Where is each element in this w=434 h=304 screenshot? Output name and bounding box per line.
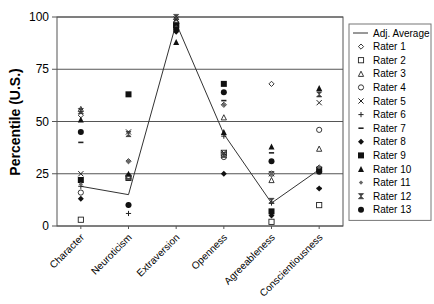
data-point	[316, 169, 322, 175]
x-tick-label: Extraversion	[135, 232, 182, 279]
legend-label: Rater 7	[373, 123, 406, 134]
y-axis: 0255075100	[29, 10, 57, 233]
data-point	[317, 127, 322, 132]
data-point	[358, 152, 364, 158]
x-axis: CharacterNeuroticismExtraversionOpenness…	[47, 226, 324, 299]
data-point	[126, 202, 132, 208]
legend-label: Rater 4	[373, 82, 406, 93]
data-point	[78, 129, 84, 135]
x-tick-label: Character	[47, 231, 86, 270]
y-tick-label: 100	[29, 10, 49, 24]
legend-label: Rater 12	[373, 191, 412, 202]
legend-label: Rater 9	[373, 150, 406, 161]
y-axis-label: Percentile (U.S.)	[7, 68, 23, 175]
data-point	[358, 58, 363, 63]
legend-label: Rater 11	[373, 177, 411, 188]
data-point	[358, 207, 364, 213]
legend: Adj. AverageRater 1Rater 2Rater 3Rater 4…	[349, 24, 431, 220]
legend-label: Adj. Average	[373, 28, 430, 39]
legend-label: Rater 5	[373, 96, 406, 107]
data-point	[221, 89, 227, 95]
plot-area	[57, 14, 343, 226]
legend-label: Rater 2	[373, 55, 406, 66]
x-tick-label: Openness	[189, 232, 229, 272]
y-tick-label: 75	[36, 62, 50, 76]
legend-label: Rater 3	[373, 68, 406, 79]
data-point	[78, 190, 83, 195]
x-tick-label: Agreeableness	[222, 232, 277, 287]
data-point	[317, 203, 322, 208]
chart: 0255075100 CharacterNeuroticismExtravers…	[0, 0, 434, 304]
y-tick-label: 50	[36, 115, 50, 129]
data-point	[358, 85, 363, 90]
legend-label: Rater 8	[373, 136, 406, 147]
data-point	[269, 158, 275, 164]
data-point	[126, 91, 132, 97]
data-point	[78, 217, 83, 222]
data-point	[221, 81, 227, 87]
x-tick-label: Neuroticism	[89, 232, 134, 277]
legend-label: Rater 1	[373, 41, 406, 52]
y-tick-label: 25	[36, 167, 50, 181]
y-tick-label: 0	[42, 219, 49, 233]
legend-label: Rater 10	[373, 164, 412, 175]
legend-label: Rater 6	[373, 109, 406, 120]
data-point	[173, 27, 179, 33]
data-point	[269, 219, 274, 224]
legend-label: Rater 13	[373, 204, 412, 215]
data-point	[269, 208, 275, 214]
